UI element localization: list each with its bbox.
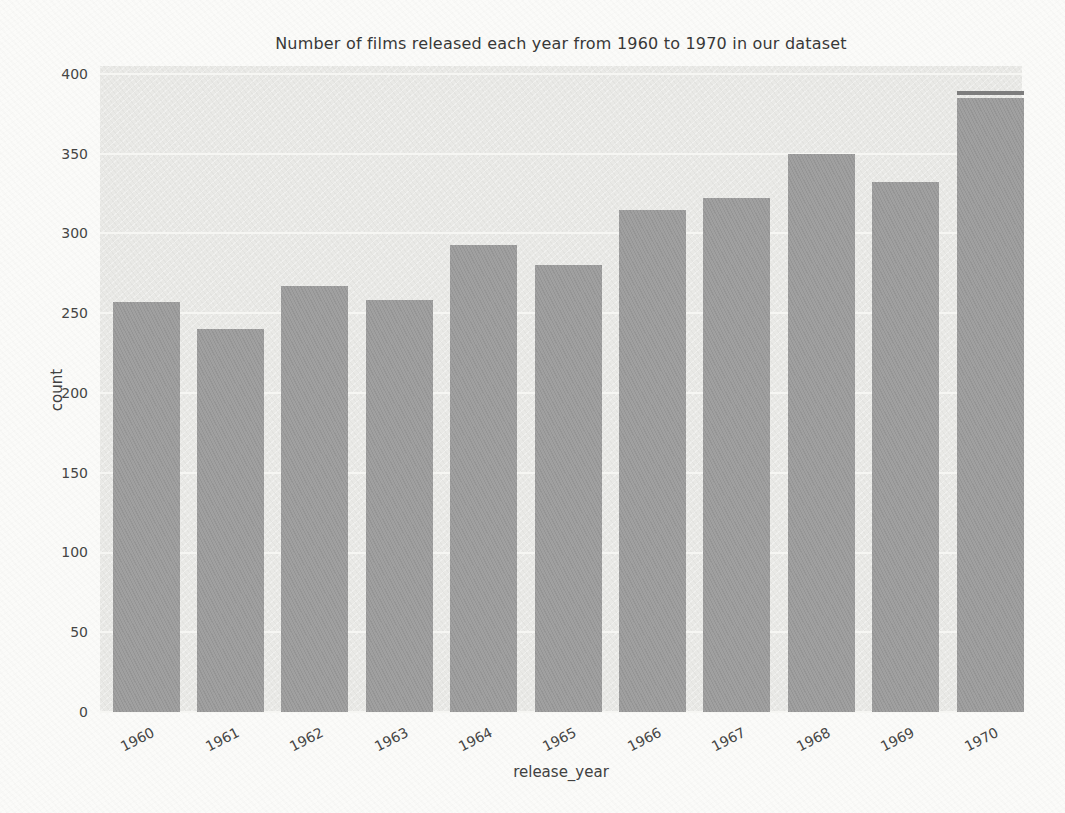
gridline-y-350: [100, 153, 1022, 155]
bar-1964: [450, 245, 517, 712]
bar-1965: [535, 265, 602, 712]
chart-title: Number of films released each year from …: [100, 34, 1022, 53]
y-tick-300: 300: [30, 223, 88, 243]
x-tick-1965: 1965: [540, 724, 579, 754]
gridline-y-400: [100, 73, 1022, 75]
plot-area: [100, 66, 1022, 712]
bar-1962: [281, 286, 348, 712]
x-tick-1969: 1969: [878, 724, 917, 754]
scanned-page: Number of films released each year from …: [0, 0, 1065, 813]
x-axis-label: release_year: [100, 763, 1022, 781]
bar-1963: [366, 300, 433, 712]
x-tick-1960: 1960: [118, 724, 157, 754]
y-tick-150: 150: [30, 463, 88, 483]
bar-1970: [957, 98, 1024, 712]
x-tick-1963: 1963: [371, 724, 410, 754]
bar-1960: [113, 302, 180, 712]
bar-1969: [872, 182, 939, 712]
bar-1966: [619, 210, 686, 712]
x-tick-1964: 1964: [456, 724, 495, 754]
bar-1968: [788, 154, 855, 712]
y-tick-50: 50: [30, 622, 88, 642]
y-tick-400: 400: [30, 64, 88, 84]
y-tick-350: 350: [30, 144, 88, 164]
x-tick-1968: 1968: [793, 724, 832, 754]
x-tick-1962: 1962: [287, 724, 326, 754]
x-tick-1961: 1961: [203, 724, 242, 754]
bar-1967: [703, 198, 770, 712]
x-tick-1967: 1967: [709, 724, 748, 754]
y-tick-200: 200: [30, 383, 88, 403]
x-tick-1966: 1966: [625, 724, 664, 754]
y-tick-100: 100: [30, 542, 88, 562]
y-tick-0: 0: [30, 702, 88, 722]
bar-chart-figure: Number of films released each year from …: [0, 0, 1065, 813]
x-tick-1970: 1970: [962, 724, 1001, 754]
y-tick-250: 250: [30, 303, 88, 323]
bar-top-cap-line: [957, 91, 1024, 95]
bar-1961: [197, 329, 264, 712]
